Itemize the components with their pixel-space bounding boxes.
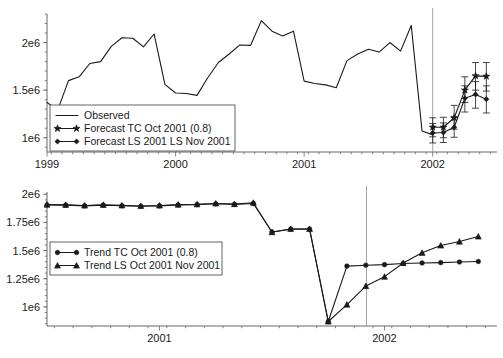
y-tick-label: 2e6 (22, 37, 40, 49)
triangle-marker (475, 233, 481, 239)
legend: Trend TC Oct 2001 (0.8)Trend LS Oct 2001… (50, 242, 222, 275)
forecast-chart-panel: 1e61.5e62e61999200020012002ObservedForec… (0, 0, 503, 180)
legend-circle-marker (55, 250, 60, 255)
y-tick-label: 1e6 (22, 132, 40, 144)
circle-marker (420, 261, 425, 266)
x-tick-group: 20012002 (147, 326, 396, 344)
forecast-chart-svg: 1e61.5e62e61999200020012002ObservedForec… (0, 0, 503, 180)
series-line (433, 76, 487, 127)
legend-circle-marker (74, 250, 79, 255)
series-markers (429, 72, 490, 130)
circle-marker (476, 259, 481, 264)
y-tick-label: 1e6 (22, 301, 40, 313)
error-bars (429, 63, 490, 138)
legend: ObservedForecast TC Oct 2001 (0.8)Foreca… (50, 105, 235, 151)
y-tick-label: 1.5e6 (12, 245, 40, 257)
circle-marker (345, 264, 350, 269)
y-tick-label: 1.75e6 (6, 216, 40, 228)
triangle-marker (363, 283, 369, 289)
y-tick-group: 1e61.25e61.5e61.75e62e6 (6, 188, 47, 313)
series-2 (429, 82, 490, 143)
x-tick-label: 2000 (163, 158, 187, 170)
legend-label: Forecast TC Oct 2001 (0.8) (84, 122, 212, 134)
diamond-marker (462, 96, 467, 101)
triangle-marker (419, 250, 425, 256)
legend-label: Trend TC Oct 2001 (0.8) (84, 246, 198, 258)
legend-label: Forecast LS 2001 LS Nov 2001 (84, 135, 231, 147)
x-tick-label: 2001 (147, 332, 171, 344)
circle-marker (457, 260, 462, 265)
y-tick-group: 1e61.5e62e6 (12, 37, 47, 144)
trend-chart-panel: 1e61.25e61.5e61.75e62e620012002Trend TC … (0, 178, 503, 358)
x-tick-label: 2002 (420, 158, 444, 170)
circle-marker (382, 262, 387, 267)
y-tick-label: 1.5e6 (12, 84, 40, 96)
legend-label: Observed (84, 109, 130, 121)
circle-marker (438, 260, 443, 265)
legend-label: Trend LS Oct 2001 Nov 2001 (84, 259, 220, 271)
x-tick-label: 1999 (35, 158, 59, 170)
y-tick-label: 2e6 (22, 188, 40, 200)
circle-marker (364, 263, 369, 268)
x-tick-label: 2001 (292, 158, 316, 170)
y-tick-label: 1.25e6 (6, 273, 40, 285)
diamond-marker (441, 130, 446, 135)
trend-chart-svg: 1e61.25e61.5e61.75e62e620012002Trend TC … (0, 178, 503, 358)
diamond-marker (484, 97, 489, 102)
diamond-marker (473, 92, 478, 97)
series-1 (429, 63, 490, 138)
x-tick-label: 2002 (372, 332, 396, 344)
figure-root: 1e61.5e62e61999200020012002ObservedForec… (0, 0, 503, 358)
x-tick-group: 1999200020012002 (35, 152, 445, 170)
